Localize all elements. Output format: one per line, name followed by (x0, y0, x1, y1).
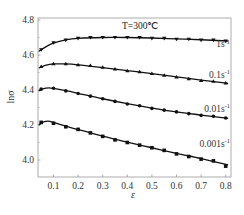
y-tick-label: 4.0 (22, 155, 34, 165)
square-marker (199, 157, 203, 161)
square-marker (64, 125, 68, 129)
circle-marker (199, 114, 203, 118)
square-marker (89, 131, 93, 135)
square-marker (175, 152, 179, 156)
square-marker (101, 135, 105, 139)
square-marker (224, 164, 228, 168)
circle-marker (39, 87, 43, 91)
series-label: 0.01s-1 (204, 102, 230, 114)
square-marker (76, 128, 80, 132)
y-tick-label: 4.2 (22, 120, 34, 130)
square-marker (212, 159, 216, 163)
circle-marker (113, 100, 117, 104)
circle-marker (162, 108, 166, 112)
y-tick-label: 4.6 (22, 50, 34, 60)
x-tick-label: 0.6 (171, 181, 183, 191)
x-tick-label: 0.5 (146, 181, 158, 191)
square-marker (52, 121, 56, 125)
circle-marker (175, 110, 179, 114)
y-tick-label: 4.4 (22, 85, 34, 95)
circle-marker (126, 102, 130, 106)
series-label: 1s-1 (216, 38, 230, 50)
fit-curve-2 (39, 88, 228, 118)
circle-marker (212, 114, 216, 118)
square-marker (162, 149, 166, 153)
y-tick-label: 4.8 (22, 15, 34, 25)
circle-marker (52, 86, 56, 90)
series-label: 0.1s-1 (209, 68, 230, 80)
circle-marker (187, 112, 191, 116)
circle-marker (64, 89, 68, 93)
series-labels: 1s-10.1s-10.01s-10.001s-1 (200, 38, 231, 149)
x-tick-label: 0.7 (195, 181, 207, 191)
square-marker (150, 146, 154, 150)
circle-marker (89, 94, 93, 98)
circle-marker (224, 116, 228, 120)
circle-marker (150, 107, 154, 111)
x-axis-title: ε (131, 189, 135, 200)
plot-frame (38, 18, 231, 177)
triangle-up-marker (88, 64, 92, 68)
square-marker (187, 155, 191, 159)
square-marker (113, 138, 117, 142)
temperature-annotation: T=300℃ (122, 21, 158, 31)
circle-marker (138, 104, 142, 108)
chart: 0.10.20.30.40.50.60.70.8 4.04.24.44.64.8… (0, 0, 244, 215)
y-axis-title: lnσ (5, 90, 16, 104)
series-label: 0.001s-1 (200, 137, 231, 149)
square-marker (138, 143, 142, 147)
circle-marker (76, 92, 80, 96)
fit-curve-1 (39, 64, 228, 84)
circle-marker (101, 97, 105, 101)
x-tick-label: 0.1 (48, 181, 60, 191)
square-marker (39, 121, 43, 125)
square-marker (126, 141, 130, 145)
x-tick-label: 0.8 (220, 181, 232, 191)
x-tick-label: 0.2 (72, 181, 84, 191)
x-tick-label: 0.3 (97, 181, 109, 191)
